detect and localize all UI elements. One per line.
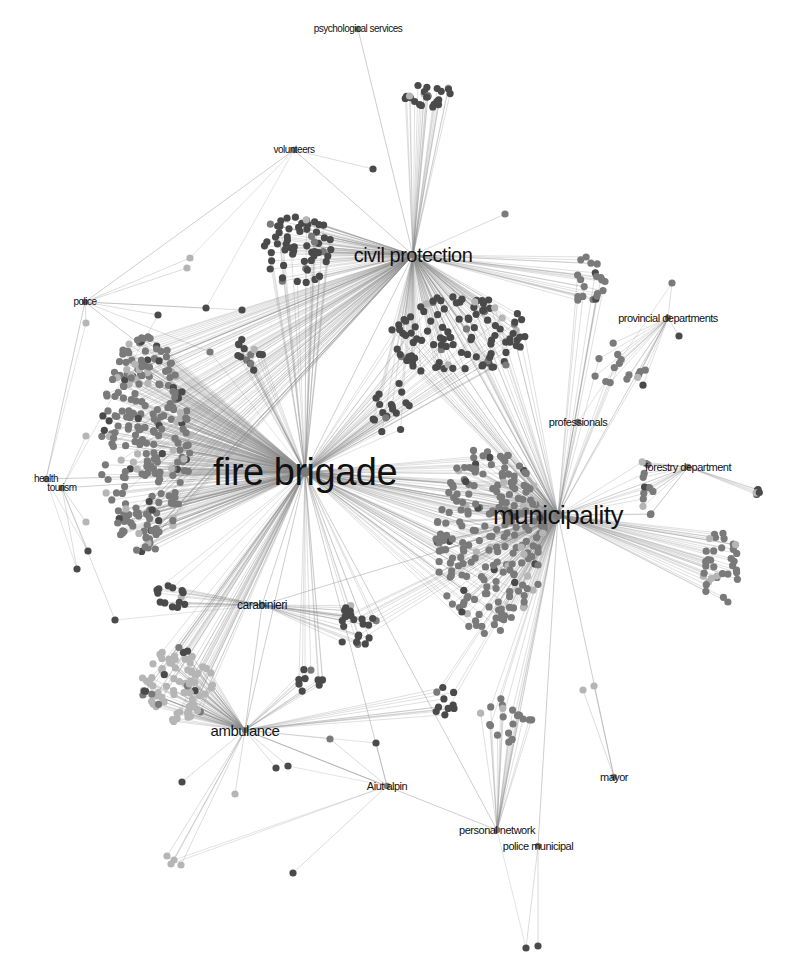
hub-label-carabinieri: carabinieri: [237, 599, 287, 611]
hub-label-tourism: tourism: [47, 483, 76, 493]
hub-label-civil-protection: civil protection: [354, 245, 473, 265]
hub-label-fire-brigade: fire brigade: [213, 453, 397, 491]
hub-label-psychological-services: psychological services: [314, 24, 403, 34]
hub-label-police-municipal: police municipal: [503, 841, 573, 852]
hub-label-provincial-departments: provincial departments: [618, 313, 718, 324]
hub-label-forestry-department: forestry department: [645, 462, 731, 473]
hub-label-ambulance: ambulance: [211, 723, 280, 738]
hub-label-mayor: mayor: [600, 772, 628, 783]
hub-label-personal-network: personal network: [459, 825, 535, 836]
hub-label-professionals: professionals: [549, 417, 607, 428]
hub-label-municipality: municipality: [493, 502, 623, 528]
hub-label-volunteers: volunteers: [273, 145, 314, 155]
hub-label-police: police: [73, 297, 96, 307]
hub-label-aiut-alpin: Aiut alpin: [367, 781, 407, 792]
